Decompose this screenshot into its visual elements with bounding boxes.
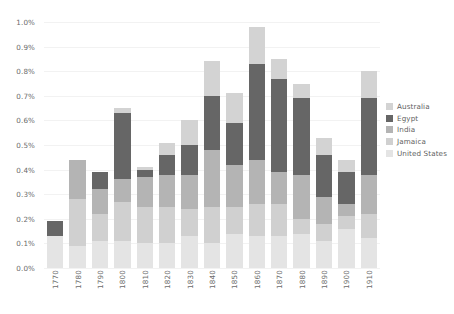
bar-segment[interactable] [249, 27, 266, 64]
bar-segment[interactable] [361, 71, 378, 98]
bar-group[interactable] [92, 172, 109, 268]
bar-segment[interactable] [271, 172, 288, 204]
bar-segment[interactable] [249, 236, 266, 268]
x-tick-label: 1830 [186, 270, 195, 289]
bar-segment[interactable] [249, 204, 266, 236]
bar-segment[interactable] [361, 214, 378, 239]
bar-segment[interactable] [114, 108, 131, 113]
bar-segment[interactable] [293, 219, 310, 234]
bar-segment[interactable] [204, 207, 221, 244]
bar-segment[interactable] [181, 145, 198, 175]
y-tick-label: 0.1% [16, 239, 35, 248]
bar-segment[interactable] [114, 202, 131, 241]
bar-segment[interactable] [271, 59, 288, 79]
bar-segment[interactable] [159, 155, 176, 175]
bar-segment[interactable] [293, 98, 310, 174]
bar-segment[interactable] [271, 204, 288, 236]
x-tick-label: 1800 [118, 270, 127, 289]
bar-segment[interactable] [159, 175, 176, 207]
bar-segment[interactable] [114, 241, 131, 268]
bar-group[interactable] [271, 59, 288, 268]
x-tick-label: 1900 [342, 270, 351, 289]
legend-item[interactable]: India [386, 124, 447, 136]
bar-segment[interactable] [338, 204, 355, 216]
bar-segment[interactable] [338, 216, 355, 228]
bar-segment[interactable] [92, 172, 109, 189]
bar-segment[interactable] [226, 207, 243, 234]
bar-segment[interactable] [271, 79, 288, 172]
bar-segment[interactable] [159, 143, 176, 155]
bar-segment[interactable] [204, 150, 221, 207]
bar-segment[interactable] [316, 138, 333, 155]
bar-segment[interactable] [92, 189, 109, 214]
bar-segment[interactable] [69, 246, 86, 268]
bar-group[interactable] [338, 160, 355, 268]
bar-segment[interactable] [159, 243, 176, 268]
bar-segment[interactable] [137, 167, 154, 169]
bar-group[interactable] [69, 160, 86, 268]
bar-group[interactable] [159, 143, 176, 268]
bar-segment[interactable] [137, 177, 154, 207]
bar-segment[interactable] [293, 84, 310, 99]
bar-segment[interactable] [137, 207, 154, 244]
bar-segment[interactable] [316, 241, 333, 268]
legend-item[interactable]: Australia [386, 101, 447, 113]
bar-segment[interactable] [361, 98, 378, 174]
y-tick-label: 0.5% [16, 141, 35, 150]
bar-group[interactable] [293, 84, 310, 269]
bar-segment[interactable] [293, 175, 310, 219]
bar-segment[interactable] [271, 236, 288, 268]
bar-segment[interactable] [181, 209, 198, 236]
bar-segment[interactable] [114, 113, 131, 179]
stacked-bar-chart: 0.0%0.1%0.2%0.3%0.4%0.5%0.6%0.7%0.8%0.9%… [0, 0, 454, 314]
bar-segment[interactable] [181, 120, 198, 145]
legend-item[interactable]: United States [386, 147, 447, 159]
bar-group[interactable] [114, 108, 131, 268]
bar-segment[interactable] [181, 175, 198, 209]
bar-group[interactable] [316, 138, 333, 268]
legend-item[interactable]: Jamaica [386, 136, 447, 148]
bar-segment[interactable] [293, 234, 310, 268]
legend-label: United States [397, 149, 447, 158]
bar-segment[interactable] [204, 61, 221, 95]
bar-segment[interactable] [226, 234, 243, 268]
bar-segment[interactable] [338, 229, 355, 268]
y-tick-label: 0.2% [16, 214, 35, 223]
bar-segment[interactable] [316, 224, 333, 241]
bar-group[interactable] [137, 167, 154, 268]
bar-segment[interactable] [92, 241, 109, 268]
bar-group[interactable] [249, 27, 266, 268]
y-tick-label: 0.7% [16, 91, 35, 100]
bar-segment[interactable] [226, 123, 243, 165]
bar-segment[interactable] [137, 243, 154, 268]
bar-segment[interactable] [47, 221, 64, 236]
bar-segment[interactable] [338, 172, 355, 204]
bar-segment[interactable] [316, 155, 333, 197]
bar-segment[interactable] [249, 64, 266, 160]
bar-segment[interactable] [114, 179, 131, 201]
bar-segment[interactable] [159, 207, 176, 244]
bar-segment[interactable] [361, 175, 378, 214]
bar-segment[interactable] [226, 165, 243, 207]
bar-segment[interactable] [47, 236, 64, 268]
bar-segment[interactable] [316, 197, 333, 224]
bar-group[interactable] [47, 221, 64, 268]
bar-segment[interactable] [204, 96, 221, 150]
bar-group[interactable] [204, 61, 221, 268]
legend-label: Jamaica [397, 137, 426, 146]
legend-swatch-icon [386, 115, 393, 122]
bar-group[interactable] [361, 71, 378, 268]
bar-segment[interactable] [361, 238, 378, 268]
bar-segment[interactable] [92, 214, 109, 241]
bar-segment[interactable] [226, 93, 243, 123]
bar-segment[interactable] [69, 199, 86, 246]
bar-segment[interactable] [204, 243, 221, 268]
bar-segment[interactable] [338, 160, 355, 172]
bar-segment[interactable] [137, 170, 154, 177]
bar-group[interactable] [226, 93, 243, 268]
bar-group[interactable] [181, 120, 198, 268]
legend-item[interactable]: Egypt [386, 113, 447, 125]
bar-segment[interactable] [181, 236, 198, 268]
bar-segment[interactable] [69, 160, 86, 199]
bar-segment[interactable] [249, 160, 266, 204]
